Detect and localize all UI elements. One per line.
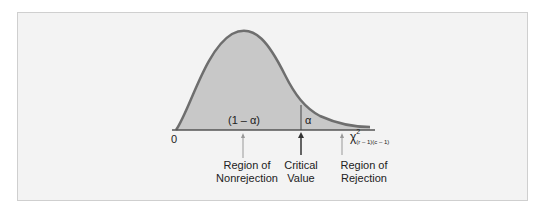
axis-label: χ2(r – 1)(c – 1) [350, 130, 389, 145]
nonrejection-area-label: (1 – α) [228, 114, 260, 126]
nonrejection-label: Region of Nonrejection [212, 159, 282, 185]
origin-label: 0 [171, 133, 177, 145]
rejection-label: Region of Rejection [334, 159, 394, 185]
rejection-area-label: α [305, 114, 311, 126]
critical-value-label: Critical Value [279, 159, 323, 185]
